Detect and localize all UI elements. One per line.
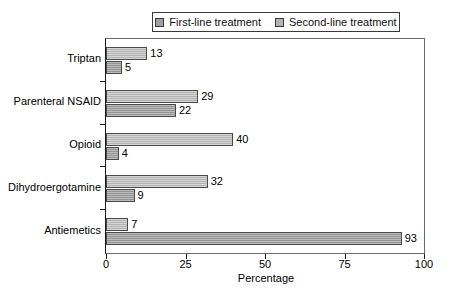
bar-second-line <box>106 133 233 146</box>
y-axis-tick <box>100 124 105 125</box>
bar-value-label: 5 <box>125 61 131 74</box>
bar-group: 2922 <box>106 90 424 117</box>
bar-first-line <box>106 189 135 202</box>
bar-first-line <box>106 232 402 245</box>
y-axis-tick <box>100 81 105 82</box>
legend-label-first-line: First-line treatment <box>169 17 261 28</box>
bar-second-line <box>106 218 128 231</box>
y-axis-tick <box>100 209 105 210</box>
bar-group: 329 <box>106 175 424 202</box>
plot-area: 1352922404329793 <box>106 39 424 253</box>
bar-value-label: 7 <box>131 218 137 231</box>
bar-value-label: 40 <box>236 133 248 146</box>
bar-value-label: 93 <box>405 232 417 245</box>
bar-value-label: 22 <box>179 104 191 117</box>
bar-group: 404 <box>106 133 424 160</box>
x-axis-tick-label: 0 <box>103 258 109 270</box>
x-axis-title: Percentage <box>106 272 426 284</box>
legend-item-second-line: Second-line treatment <box>275 17 397 28</box>
bar-second-line <box>106 90 198 103</box>
bar-chart: First-line treatment Second-line treatme… <box>0 0 453 290</box>
bar-first-line <box>106 147 119 160</box>
chart-legend: First-line treatment Second-line treatme… <box>152 12 400 32</box>
bar-value-label: 13 <box>150 47 162 60</box>
x-axis-tick-label: 25 <box>179 258 191 270</box>
bar-first-line <box>106 61 122 74</box>
x-axis-tick-label: 75 <box>338 258 350 270</box>
x-axis-tick-label: 100 <box>415 258 433 270</box>
x-axis-tick-labels: 0255075100 <box>106 258 426 272</box>
bar-value-label: 9 <box>138 189 144 202</box>
bar-second-line <box>106 47 147 60</box>
bar-second-line <box>106 175 208 188</box>
bar-value-label: 32 <box>211 175 223 188</box>
y-axis-tick <box>100 166 105 167</box>
legend-item-first-line: First-line treatment <box>155 17 261 28</box>
bar-value-label: 4 <box>122 147 128 160</box>
bar-value-label: 29 <box>201 90 213 103</box>
legend-label-second-line: Second-line treatment <box>289 17 397 28</box>
bar-group: 135 <box>106 47 424 74</box>
legend-swatch-second-line <box>275 18 284 27</box>
legend-swatch-first-line <box>155 18 164 27</box>
x-axis-tick-label: 50 <box>259 258 271 270</box>
y-axis-ticks <box>0 38 106 254</box>
bar-group: 793 <box>106 218 424 245</box>
bar-first-line <box>106 104 176 117</box>
